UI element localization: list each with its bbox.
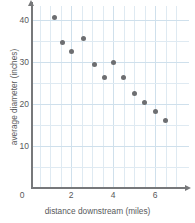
gridline-vertical: [134, 6, 135, 188]
x-tick-label: 2: [61, 191, 81, 200]
data-point: [153, 109, 158, 114]
y-axis-line: [31, 2, 33, 189]
gridline-horizontal: [31, 41, 189, 42]
gridline-vertical: [40, 6, 41, 188]
gridline-vertical: [124, 6, 125, 188]
x-tick-label: 0: [12, 191, 32, 200]
gridline-vertical: [145, 6, 146, 188]
gridline-vertical: [155, 6, 156, 188]
data-point: [92, 62, 97, 67]
data-point: [111, 60, 116, 65]
gridline-vertical: [113, 6, 114, 188]
x-tick-label: 4: [103, 191, 123, 200]
gridline-vertical: [71, 6, 72, 188]
data-point: [121, 75, 126, 80]
gridline-horizontal: [31, 20, 189, 21]
gridline-horizontal: [31, 125, 189, 126]
y-axis-title: average diameter (inches): [9, 22, 19, 172]
data-point: [69, 49, 74, 54]
gridline-horizontal: [31, 146, 189, 147]
gridline-horizontal: [31, 104, 189, 105]
data-point: [142, 100, 147, 105]
x-tick-label: 6: [145, 191, 165, 200]
gridline-vertical: [82, 6, 83, 188]
data-point: [132, 91, 137, 96]
data-point: [163, 118, 168, 123]
gridline-horizontal: [31, 83, 189, 84]
x-axis-line: [31, 187, 187, 189]
gridlines: [31, 6, 189, 188]
gridline-vertical: [103, 6, 104, 188]
plot-area: [31, 6, 189, 188]
x-axis-title: distance downstream (miles): [0, 206, 195, 216]
x-axis-arrow-icon: [185, 185, 191, 191]
gridline-horizontal: [31, 167, 189, 168]
x-axis-tick-labels: 0246: [0, 191, 195, 203]
gridline-vertical: [50, 6, 51, 188]
gridline-vertical: [166, 6, 167, 188]
gridline-vertical: [92, 6, 93, 188]
gridline-vertical: [176, 6, 177, 188]
scatter-chart: 10203040 0246 distance downstream (miles…: [0, 0, 195, 223]
gridline-vertical: [61, 6, 62, 188]
